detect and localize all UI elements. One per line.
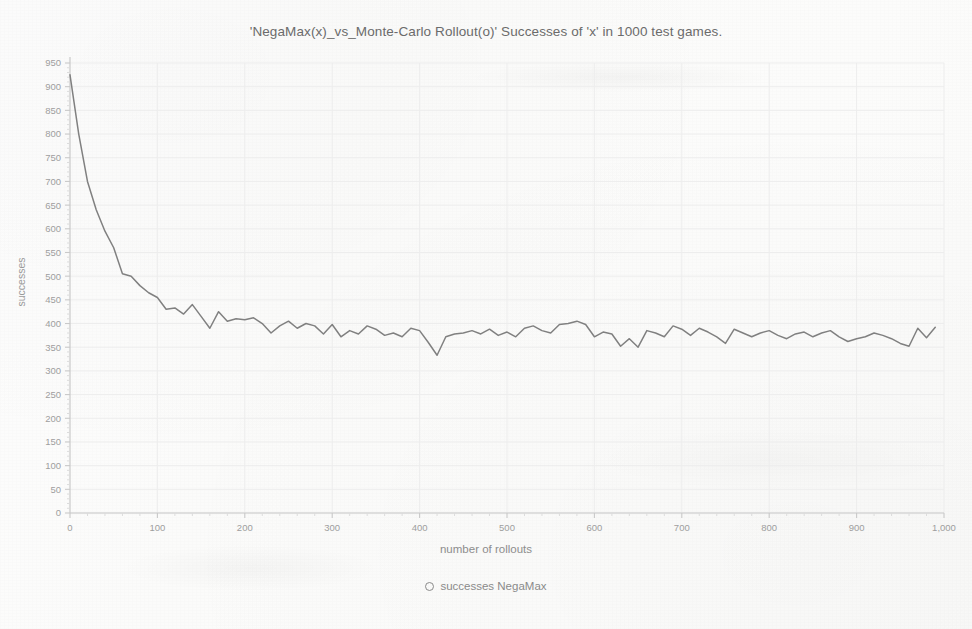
x-tick-label: 800 (761, 522, 777, 533)
y-tick-label: 950 (45, 57, 61, 68)
x-tick-label: 200 (237, 522, 253, 533)
line-chart-plot: 0501001502002503003504004505005506006507… (0, 0, 972, 629)
y-tick-label: 650 (45, 200, 61, 211)
x-axis-title: number of rollouts (0, 543, 972, 555)
x-tick-label: 100 (149, 522, 165, 533)
y-tick-label: 100 (45, 460, 61, 471)
y-tick-label: 150 (45, 436, 61, 447)
x-tick-label: 1,000 (932, 522, 956, 533)
y-tick-label: 800 (45, 128, 61, 139)
y-tick-label: 500 (45, 271, 61, 282)
x-tick-label: 600 (586, 522, 602, 533)
x-tick-label: 0 (67, 522, 72, 533)
x-tick-label: 900 (849, 522, 865, 533)
y-tick-label: 450 (45, 294, 61, 305)
y-tick-label: 400 (45, 318, 61, 329)
circle-open-icon (425, 582, 434, 591)
x-axis-ticks: 01002003004005006007008009001,000 (67, 513, 956, 533)
y-tick-label: 600 (45, 223, 61, 234)
y-tick-label: 900 (45, 81, 61, 92)
y-tick-label: 550 (45, 247, 61, 258)
y-tick-label: 50 (50, 484, 61, 495)
x-tick-label: 400 (412, 522, 428, 533)
y-tick-label: 250 (45, 389, 61, 400)
y-tick-label: 350 (45, 342, 61, 353)
x-tick-label: 500 (499, 522, 515, 533)
grid-lines (70, 63, 944, 513)
y-axis-ticks: 0501001502002503003504004505005506006507… (45, 57, 70, 518)
y-tick-label: 700 (45, 176, 61, 187)
series-line-successes-negamax (70, 75, 935, 355)
x-tick-label: 700 (674, 522, 690, 533)
legend-entry-label: successes NegaMax (440, 580, 546, 592)
data-series-layer (70, 75, 935, 355)
y-tick-label: 200 (45, 413, 61, 424)
chart-legend: successes NegaMax (0, 580, 972, 592)
y-axis-title: successes (15, 252, 27, 312)
y-tick-label: 0 (56, 507, 61, 518)
x-tick-label: 300 (324, 522, 340, 533)
y-tick-label: 750 (45, 152, 61, 163)
y-tick-label: 300 (45, 365, 61, 376)
chart-page: 'NegaMax(x)_vs_Monte-Carlo Rollout(o)' S… (0, 0, 972, 629)
y-tick-label: 850 (45, 105, 61, 116)
